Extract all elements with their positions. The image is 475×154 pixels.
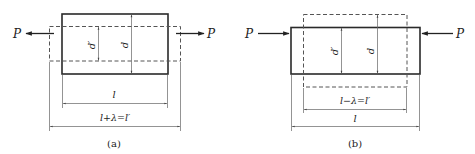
outer-diameter-label: d: [119, 42, 130, 48]
outer-diameter-label: d: [365, 48, 376, 54]
inner-diameter-label: d′: [86, 40, 97, 49]
force-label-left: P: [244, 27, 254, 41]
figure-caption-b: (b): [348, 138, 362, 149]
figure-b: P P d′ d l−λ=l′ l (b): [244, 15, 465, 150]
original-bar-outline: [62, 14, 168, 74]
force-label-right: P: [455, 27, 465, 41]
inner-diameter-label: d′: [329, 46, 340, 55]
deformed-length-label: l+λ=l′: [100, 112, 131, 123]
figure-a: P P d′ d l l+λ=l′ (a): [12, 14, 216, 149]
deformed-bar-outline: [304, 15, 408, 88]
original-length-label: l: [353, 113, 356, 124]
diagram-canvas: P P d′ d l l+λ=l′ (a) P P d′: [0, 0, 475, 154]
force-label-left: P: [12, 27, 22, 41]
original-bar-outline: [291, 28, 420, 75]
force-label-right: P: [206, 27, 216, 41]
original-length-label: l: [112, 89, 115, 100]
deformed-bar-outline: [50, 27, 181, 62]
figure-caption-a: (a): [107, 138, 121, 149]
deformed-length-label: l−λ=l′: [340, 95, 371, 106]
